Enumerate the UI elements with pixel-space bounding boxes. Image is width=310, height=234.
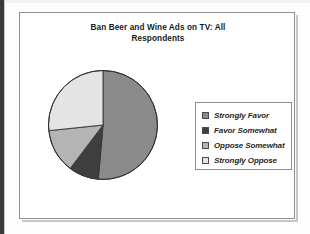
legend-label-strongly-oppose: Strongly Oppose — [214, 156, 277, 165]
page-edge-hairline — [4, 0, 5, 234]
chart-title-line-1: Ban Beer and Wine Ads on TV: All — [20, 22, 296, 33]
legend-label-oppose-somewhat: Oppose Somewhat — [214, 141, 285, 150]
legend-item-strongly-oppose[interactable]: Strongly Oppose — [202, 153, 291, 167]
legend-item-oppose-somewhat[interactable]: Oppose Somewhat — [202, 138, 291, 152]
scan-artifact-band — [5, 0, 310, 3]
chart-title: Ban Beer and Wine Ads on TV: All Respond… — [20, 22, 296, 44]
legend-label-favor-somewhat: Favor Somewhat — [214, 126, 277, 135]
pie-slice[interactable] — [49, 71, 103, 131]
figure-shadow-bottom — [22, 220, 298, 222]
legend-swatch-icon-strongly-oppose — [202, 157, 209, 164]
chart-legend: Strongly Favor Favor Somewhat Oppose Som… — [195, 102, 292, 170]
pie-slice[interactable] — [98, 70, 157, 179]
chart-title-line-2: Respondents — [20, 33, 296, 44]
chart-figure-frame: Ban Beer and Wine Ads on TV: All Respond… — [19, 12, 295, 219]
legend-label-strongly-favor: Strongly Favor — [214, 111, 269, 120]
pie-slice-group — [49, 70, 158, 179]
legend-swatch-icon-favor-somewhat — [202, 127, 209, 134]
legend-item-strongly-favor[interactable]: Strongly Favor — [202, 108, 291, 122]
figure-shadow-right — [296, 15, 298, 221]
legend-swatch-icon-oppose-somewhat — [202, 142, 209, 149]
legend-swatch-icon-strongly-favor — [202, 112, 209, 119]
pie-chart — [38, 60, 168, 190]
pie-chart-svg — [38, 60, 168, 190]
legend-item-favor-somewhat[interactable]: Favor Somewhat — [202, 123, 291, 137]
